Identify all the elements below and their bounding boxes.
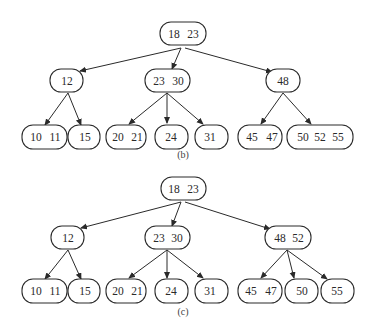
btree-diagram-svg: 182312233048101115202124314547505255(b) … — [0, 0, 377, 332]
tree-node: 12 — [51, 226, 84, 249]
tree-edge-arrow — [81, 202, 181, 228]
tree-node: 4852 — [265, 226, 311, 249]
node-key: 15 — [79, 285, 91, 297]
diagram-caption: (c) — [177, 306, 188, 318]
node-key: 23 — [153, 232, 165, 244]
tree-edge-arrow — [68, 250, 81, 279]
node-key: 15 — [79, 131, 91, 143]
node-key: 45 — [246, 131, 258, 143]
tree-node: 31 — [195, 125, 228, 149]
tree-edge-arrow — [80, 48, 181, 71]
node-key: 10 — [30, 131, 42, 143]
node-key: 12 — [61, 75, 73, 87]
node-key: 24 — [165, 285, 177, 297]
tree-node: 15 — [68, 279, 100, 303]
node-key: 12 — [62, 232, 74, 244]
tree-edge-arrow — [167, 250, 203, 278]
btree-diagram-b: 182312233048101115202124314547505255(b) — [22, 22, 353, 161]
node-key: 48 — [274, 232, 286, 244]
node-key: 20 — [112, 131, 124, 143]
tree-node: 15 — [68, 125, 100, 149]
tree-node: 1011 — [22, 279, 67, 303]
node-key: 52 — [314, 131, 326, 143]
tree-edge-arrow — [261, 250, 287, 278]
node-key: 11 — [49, 131, 60, 143]
tree-node: 2021 — [106, 279, 146, 303]
node-key: 52 — [292, 232, 304, 244]
node-box — [160, 22, 206, 45]
node-key: 50 — [297, 131, 309, 143]
tree-node: 1823 — [161, 177, 206, 200]
node-key: 21 — [131, 131, 143, 143]
tree-node: 24 — [155, 125, 188, 149]
node-key: 23 — [187, 28, 199, 40]
node-key: 31 — [204, 285, 216, 297]
tree-node: 1011 — [22, 125, 67, 149]
tree-edge-arrow — [185, 202, 270, 229]
node-key: 47 — [265, 285, 277, 297]
tree-edge-arrow — [45, 93, 68, 125]
tree-edge-arrow — [129, 93, 167, 124]
tree-node: 50 — [285, 279, 318, 303]
tree-node: 4547 — [238, 279, 282, 303]
node-box — [265, 226, 311, 249]
node-box — [145, 226, 190, 249]
tree-node: 24 — [155, 279, 188, 303]
node-key: 31 — [204, 131, 216, 143]
node-key: 23 — [153, 75, 165, 87]
node-key: 18 — [168, 28, 180, 40]
node-key: 11 — [49, 285, 60, 297]
node-key: 21 — [131, 285, 143, 297]
btree-figure: 182312233048101115202124314547505255(b) … — [0, 0, 377, 332]
tree-edge-arrow — [185, 48, 272, 72]
tree-node: 2330 — [145, 226, 190, 249]
tree-edge-arrow — [172, 202, 181, 226]
tree-node: 505255 — [287, 125, 353, 149]
tree-edge-arrow — [261, 93, 283, 124]
tree-node: 48 — [266, 69, 300, 92]
btree-diagram-c: 182312233048521011152021243145475055(c) — [22, 177, 354, 318]
node-key: 18 — [168, 183, 180, 195]
tree-node: 31 — [195, 279, 228, 303]
node-key: 10 — [30, 285, 42, 297]
tree-edge-arrow — [283, 93, 311, 124]
node-key: 24 — [165, 131, 177, 143]
node-key: 47 — [266, 131, 278, 143]
tree-edge-arrow — [45, 250, 68, 279]
node-key: 48 — [277, 75, 289, 87]
node-key: 30 — [171, 232, 183, 244]
tree-edge-arrow — [68, 93, 81, 125]
tree-edge-arrow — [129, 250, 167, 278]
tree-node: 2021 — [106, 125, 146, 149]
tree-node: 4547 — [238, 125, 282, 149]
tree-node: 55 — [321, 279, 354, 303]
diagram-caption: (b) — [177, 149, 189, 161]
tree-edge-arrow — [167, 93, 203, 124]
node-key: 30 — [172, 75, 184, 87]
node-key: 23 — [187, 183, 199, 195]
tree-node: 2330 — [145, 69, 190, 92]
tree-node: 12 — [50, 69, 83, 92]
node-key: 20 — [112, 285, 124, 297]
node-key: 50 — [296, 285, 308, 297]
node-key: 45 — [245, 285, 257, 297]
node-key: 55 — [331, 285, 343, 297]
tree-edge-arrow — [172, 48, 181, 69]
tree-node: 1823 — [160, 22, 206, 45]
node-key: 55 — [332, 131, 344, 143]
